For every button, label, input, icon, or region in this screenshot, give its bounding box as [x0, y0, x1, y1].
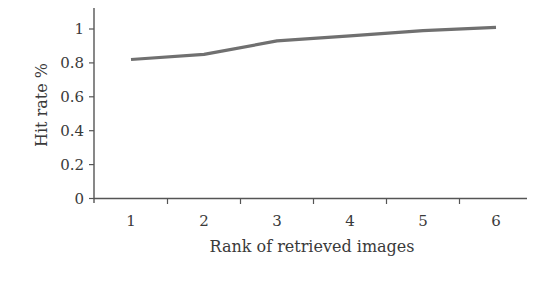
y-tick-label: 0.2	[60, 156, 84, 174]
y-tick-label: 0.4	[60, 122, 84, 140]
data-series	[131, 27, 496, 59]
x-axis-title: Rank of retrieved images	[209, 237, 414, 256]
y-tick-label: 0.8	[60, 54, 84, 72]
x-tick-label: 2	[199, 212, 209, 230]
x-axis: 123456	[94, 199, 527, 231]
x-tick-labels: 123456	[126, 212, 501, 230]
x-tick-label: 6	[491, 212, 501, 230]
x-tick-label: 3	[272, 212, 282, 230]
x-tick-label: 4	[345, 212, 355, 230]
x-ticks	[168, 199, 460, 205]
line-chart: 00.20.40.60.81 123456 Hit rate % Rank of…	[0, 0, 556, 284]
y-tick-label: 0.6	[60, 88, 84, 106]
x-tick-label: 1	[126, 212, 136, 230]
x-tick-label: 5	[418, 212, 428, 230]
series-line-hit-rate	[131, 27, 496, 59]
y-ticks: 00.20.40.60.81	[60, 20, 94, 208]
y-axis: 00.20.40.60.81	[60, 8, 94, 208]
y-tick-label: 0	[74, 190, 84, 208]
y-tick-label: 1	[74, 20, 84, 38]
y-axis-title: Hit rate %	[32, 63, 51, 147]
